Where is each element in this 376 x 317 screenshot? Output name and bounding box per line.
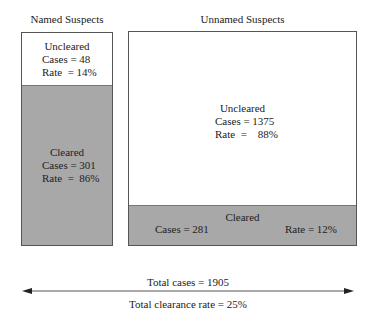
named-uncleared-rate: Rate = 14% xyxy=(42,66,97,78)
named-cleared-label: Cleared xyxy=(22,146,112,158)
named-suspects-box: Uncleared Cases = 48 Rate = 14% Cleared … xyxy=(21,32,113,246)
named-uncleared-segment: Uncleared Cases = 48 Rate = 14% xyxy=(22,33,112,85)
unnamed-cleared-rate: Rate = 12% xyxy=(285,223,337,235)
named-cleared-cases: Cases = 301 xyxy=(42,159,96,171)
unnamed-uncleared-segment: Uncleared Cases = 1375 Rate = 88% xyxy=(129,32,356,205)
named-suspects-title: Named Suspects xyxy=(21,13,113,25)
unnamed-uncleared-label: Uncleared xyxy=(129,102,356,114)
named-uncleared-label: Uncleared xyxy=(22,40,112,52)
unnamed-uncleared-cases: Cases = 1375 xyxy=(215,115,274,127)
named-uncleared-cases: Cases = 48 xyxy=(42,53,90,65)
unnamed-suspects-title: Unnamed Suspects xyxy=(128,13,357,25)
unnamed-cleared-label: Cleared xyxy=(129,211,356,223)
total-clearance-rate-label: Total clearance rate = 25% xyxy=(0,298,376,310)
unnamed-cleared-cases: Cases = 281 xyxy=(155,223,209,235)
named-cleared-rate: Rate = 86% xyxy=(42,172,100,184)
unnamed-uncleared-rate: Rate = 88% xyxy=(215,128,278,140)
unnamed-suspects-box: Uncleared Cases = 1375 Rate = 88% Cleare… xyxy=(128,31,357,246)
named-cleared-segment: Cleared Cases = 301 Rate = 86% xyxy=(22,85,112,245)
unnamed-cleared-segment: Cleared Cases = 281 Rate = 12% xyxy=(129,205,356,245)
total-double-arrow xyxy=(0,285,376,297)
